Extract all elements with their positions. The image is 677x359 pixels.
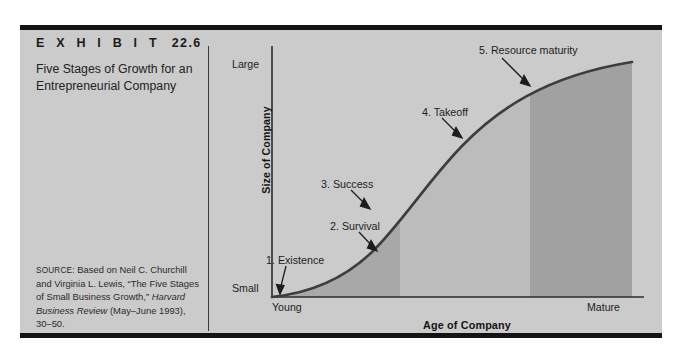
exhibit-kicker-number: 22.6	[172, 36, 202, 50]
source-note: SOURCE: Based on Neil C. Churchill and V…	[36, 263, 201, 330]
stage-band-3	[400, 36, 530, 336]
x-tick-mature: Mature	[587, 301, 620, 313]
stage-band-4	[530, 36, 632, 336]
top-rule	[20, 25, 662, 30]
x-tick-young: Young	[272, 301, 302, 313]
y-axis-title: Size of Company	[260, 85, 272, 215]
source-label: SOURCE:	[36, 266, 75, 275]
stage-label-success: 3. Success	[321, 178, 373, 190]
stage-label-survival: 2. Survival	[330, 220, 380, 232]
stage-label-existence: 1. Existence	[266, 254, 324, 266]
y-tick-small: Small	[232, 282, 259, 294]
exhibit-kicker-label: E X H I B I T	[36, 36, 161, 50]
exhibit-caption-column: E X H I B I T22.6 Five Stages of Growth …	[36, 36, 198, 328]
exhibit-page: E X H I B I T22.6 Five Stages of Growth …	[0, 0, 677, 359]
stage-label-resource-maturity: 5. Resource maturity	[479, 44, 578, 56]
y-tick-large: Large	[232, 58, 259, 70]
chart-canvas	[214, 36, 662, 336]
growth-stages-chart: Size of Company Age of Company Large Sma…	[214, 36, 662, 336]
stage-label-takeoff: 4. Takeoff	[422, 106, 468, 118]
exhibit-subtitle: Five Stages of Growth for an Entrepreneu…	[36, 61, 196, 94]
x-axis-title: Age of Company	[272, 319, 662, 331]
column-divider	[208, 46, 209, 331]
exhibit-kicker: E X H I B I T22.6	[36, 36, 198, 50]
arrow-head-stage-1	[277, 285, 285, 295]
